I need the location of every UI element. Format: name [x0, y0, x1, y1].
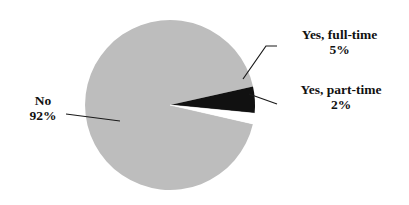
pie-label-full-time-value: 5% — [277, 42, 402, 57]
pie-label-full-time: Yes, full-time 5% — [277, 27, 402, 57]
pie-label-part-time-value: 2% — [277, 97, 405, 112]
pie-label-full-time-name: Yes, full-time — [277, 27, 402, 42]
pie-chart-figure: No 92% Yes, full-time 5% Yes, part-time … — [0, 0, 409, 205]
pie-label-no-name: No — [14, 93, 72, 108]
pie-label-no-value: 92% — [14, 108, 72, 123]
pie-label-part-time: Yes, part-time 2% — [277, 82, 405, 112]
pie-label-no: No 92% — [14, 93, 72, 123]
pie-label-part-time-name: Yes, part-time — [277, 82, 405, 97]
